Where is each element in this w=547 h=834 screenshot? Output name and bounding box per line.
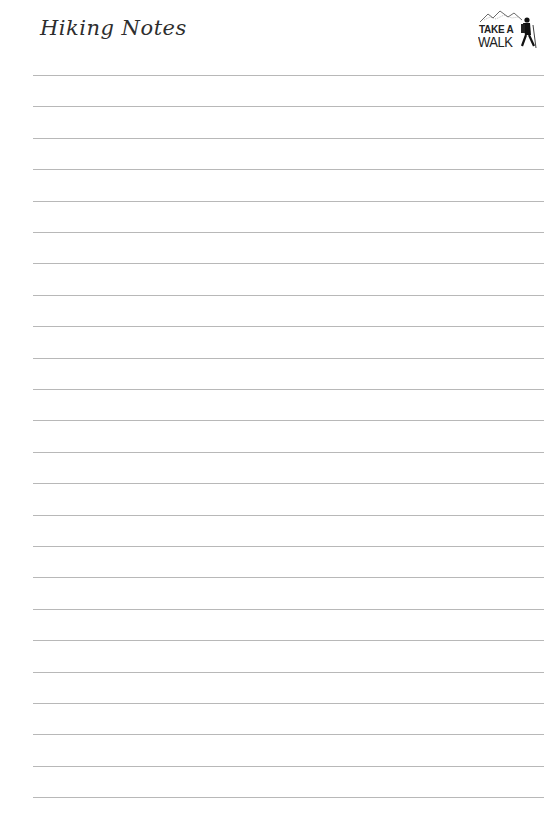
- ruled-line: [33, 734, 544, 735]
- ruled-line: [33, 169, 544, 170]
- ruled-line: [33, 201, 544, 202]
- ruled-line: [33, 609, 544, 610]
- ruled-line: [33, 577, 544, 578]
- ruled-line: [33, 672, 544, 673]
- ruled-line: [33, 295, 544, 296]
- ruled-line: [33, 640, 544, 641]
- ruled-line: [33, 515, 544, 516]
- ruled-line: [33, 326, 544, 327]
- ruled-lines: [33, 0, 544, 834]
- ruled-line: [33, 75, 544, 76]
- ruled-line: [33, 703, 544, 704]
- ruled-line: [33, 232, 544, 233]
- ruled-line: [33, 483, 544, 484]
- ruled-line: [33, 797, 544, 798]
- ruled-line: [33, 138, 544, 139]
- ruled-line: [33, 106, 544, 107]
- ruled-line: [33, 452, 544, 453]
- ruled-line: [33, 358, 544, 359]
- ruled-line: [33, 420, 544, 421]
- ruled-line: [33, 263, 544, 264]
- ruled-line: [33, 546, 544, 547]
- ruled-line: [33, 766, 544, 767]
- ruled-line: [33, 389, 544, 390]
